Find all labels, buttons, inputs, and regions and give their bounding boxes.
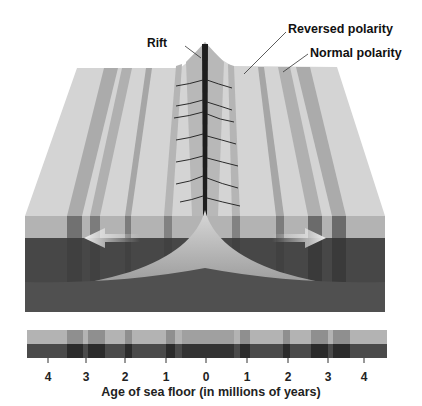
rift-label: Rift <box>147 36 167 50</box>
magnetic-stripe-bar <box>27 330 387 363</box>
normal-polarity-label: Normal polarity <box>310 46 402 60</box>
tick-label: 0 <box>203 370 210 384</box>
reversed-polarity-label: Reversed polarity <box>288 22 393 36</box>
tick-label: 4 <box>45 370 52 384</box>
tick-label: 1 <box>244 370 251 384</box>
tick-label: 3 <box>325 370 332 384</box>
seafloor-spreading-diagram <box>0 0 422 406</box>
tick-label: 3 <box>83 370 90 384</box>
crust-cross-section <box>25 210 385 312</box>
tick-label: 4 <box>361 370 368 384</box>
tick-label: 2 <box>122 370 129 384</box>
tick-label: 2 <box>285 370 292 384</box>
tick-label: 1 <box>163 370 170 384</box>
axis-title: Age of sea floor (in millions of years) <box>0 385 422 399</box>
